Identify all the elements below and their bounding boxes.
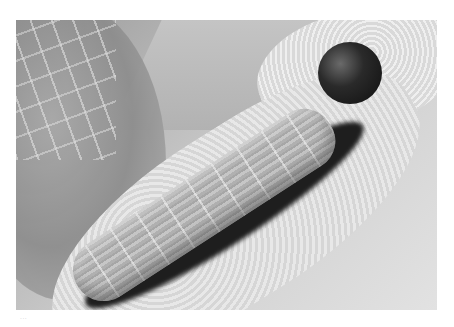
caterpillar-photo <box>16 20 437 310</box>
leaf-veins <box>16 20 116 160</box>
caption: ... <box>20 313 27 320</box>
caterpillar-head <box>318 42 382 104</box>
